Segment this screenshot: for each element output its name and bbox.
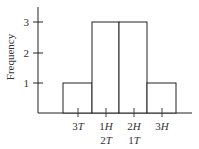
y-tick-label-1: 1 xyxy=(24,77,30,89)
x-label-1T: 1T xyxy=(128,134,141,146)
x-label-3T: 3T xyxy=(72,120,85,132)
y-tick-label-3: 3 xyxy=(24,16,30,28)
x-label-3H: 3H xyxy=(155,120,170,132)
y-tick-label-2: 2 xyxy=(24,47,30,59)
x-label-1H: 1H xyxy=(99,120,114,132)
bar-2H-1T xyxy=(119,22,147,113)
x-label-2T: 2T xyxy=(100,134,113,146)
x-label-2H: 2H xyxy=(127,120,142,132)
bar-1H-2T xyxy=(92,22,119,113)
y-axis-label: Frequency xyxy=(4,33,16,80)
histogram-chart: 1 2 3 Frequency 3T 1H 2T 2H 1T 3H xyxy=(0,0,199,149)
